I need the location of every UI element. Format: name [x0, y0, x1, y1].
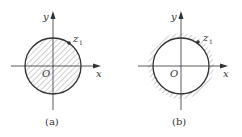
- panel-a-caption: (a): [45, 116, 59, 127]
- x-axis-label: x: [223, 68, 229, 79]
- y-axis-label: y: [170, 11, 177, 22]
- panel-a: y x O z 1 (a): [11, 11, 102, 127]
- point-z1-subscript: 1: [209, 38, 213, 45]
- panel-b: y x O z 1 (b): [121, 0, 242, 137]
- y-axis-label: y: [42, 11, 49, 22]
- point-z1-subscript: 1: [79, 39, 83, 46]
- origin-label: O: [170, 68, 178, 79]
- point-z1-label: z: [72, 33, 79, 44]
- panel-b-caption: (b): [172, 116, 186, 127]
- point-z1: [67, 41, 71, 45]
- x-axis-label: x: [96, 68, 102, 79]
- point-z1: [196, 40, 200, 44]
- y-axis-arrow-icon: [51, 11, 56, 19]
- figure-canvas: y x O z 1 (a) y x O z 1 (b): [0, 0, 242, 137]
- origin-label: O: [42, 68, 50, 79]
- point-z1-label: z: [202, 32, 209, 43]
